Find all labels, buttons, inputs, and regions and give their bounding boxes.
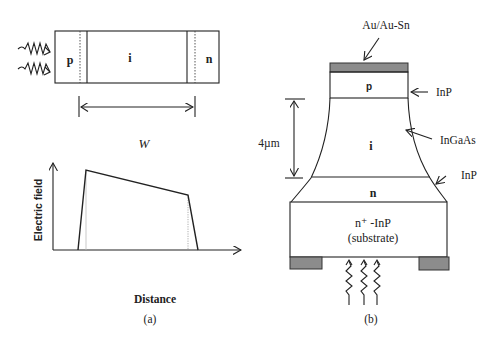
wave-arrowhead-icon (374, 260, 380, 265)
thickness-dimension: 4µm (258, 99, 305, 178)
wave-icon (18, 43, 50, 54)
incident-light-icon (346, 260, 380, 305)
device-outline (55, 31, 219, 83)
wave-arrowhead-icon (361, 260, 367, 265)
wave-icon (361, 261, 367, 305)
absorber-material-label: InGaAs (440, 134, 476, 146)
pin-device-schematic: p i n (55, 31, 219, 83)
field-profile-curve (78, 170, 198, 250)
arrow-icon (406, 130, 432, 139)
n-layer-label: n (370, 186, 377, 200)
depletion-width-dimension: W (79, 96, 195, 151)
wave-icon (374, 261, 380, 305)
caption-a: (a) (144, 313, 157, 326)
region-label-n: n (206, 52, 213, 66)
callout-contact: Au/Au-Sn (362, 19, 410, 60)
arrow-icon (364, 38, 379, 60)
n-layer-left-edge (291, 178, 311, 202)
y-axis-label: Electric field (32, 179, 44, 241)
thickness-label: 4µm (258, 137, 279, 150)
callout-top-inp: InP (411, 86, 452, 98)
bottom-layer-material-label: InP (461, 169, 477, 181)
region-label-i: i (128, 51, 132, 65)
incident-light-icon (18, 43, 50, 75)
i-region-label: i (369, 139, 373, 153)
panel-a: p i n W Electric field Distance (18, 31, 241, 326)
p-layer-label: p (366, 81, 372, 92)
contact-material-label: Au/Au-Sn (362, 19, 410, 31)
bottom-contact-right (419, 257, 449, 270)
panel-b: p i n n⁺ -InP (substrate) (258, 19, 477, 326)
substrate-label-line1: n⁺ -InP (355, 216, 391, 230)
wave-arrowhead-icon (346, 260, 352, 265)
figure-canvas: p i n W Electric field Distance (0, 0, 495, 342)
region-label-p: p (67, 53, 74, 67)
callout-ingaas: InGaAs (406, 130, 476, 146)
x-axis-label: Distance (134, 293, 176, 305)
arrow-icon (436, 176, 446, 184)
top-layer-material-label: InP (436, 86, 452, 98)
wave-icon (18, 63, 50, 74)
i-region-right-edge (408, 98, 430, 178)
bottom-contact-left (290, 257, 322, 269)
width-label: W (139, 136, 151, 151)
top-contact (330, 63, 408, 72)
substrate-label-line2: (substrate) (348, 231, 399, 245)
caption-b: (b) (364, 313, 378, 326)
i-region-left-edge (311, 98, 330, 178)
callout-bottom-inp: InP (436, 169, 477, 184)
electric-field-plot: Electric field Distance (32, 163, 241, 305)
wave-icon (346, 261, 352, 305)
